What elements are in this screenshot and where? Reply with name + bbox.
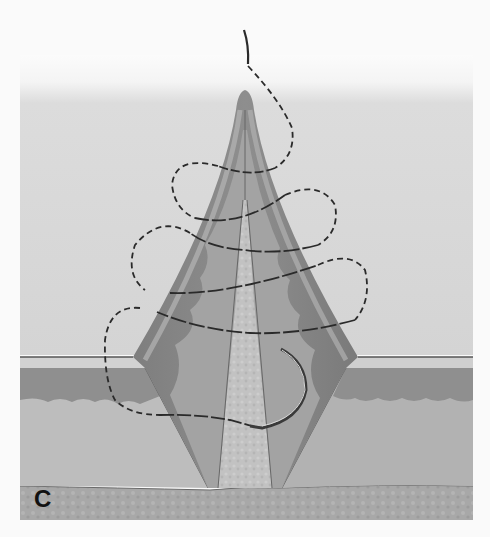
deep-fascia-layer — [20, 485, 473, 520]
panel-label: C — [34, 487, 51, 511]
diagram-canvas — [0, 0, 490, 537]
left-epidermis — [20, 357, 145, 368]
left-dermis — [20, 368, 160, 404]
suture-diagram: C — [0, 0, 490, 537]
right-dermis — [333, 368, 473, 402]
right-epidermis — [346, 357, 473, 368]
